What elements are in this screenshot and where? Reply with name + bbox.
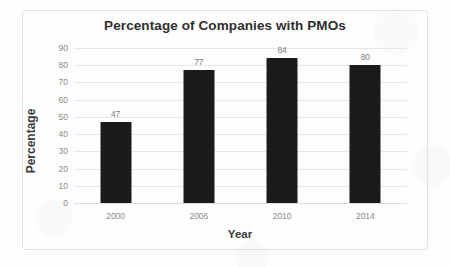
bar[interactable] (267, 58, 298, 203)
y-axis-title: Percentage (24, 96, 38, 186)
bar[interactable] (100, 122, 131, 203)
x-axis-tick-label: 2006 (189, 211, 208, 221)
bar-value-label: 84 (277, 45, 286, 55)
y-axis-tick-label: 50 (59, 112, 68, 122)
bar-group: 772006 (157, 48, 240, 203)
bar[interactable] (183, 70, 214, 203)
y-axis-tick-label: 40 (59, 129, 68, 139)
bar-group: 472000 (74, 48, 157, 203)
y-axis-tick-label: 80 (59, 60, 68, 70)
chart-figure: Percentage of Companies with PMOs Percen… (0, 0, 450, 267)
y-axis-tick-label: 20 (59, 164, 68, 174)
bar-value-label: 47 (111, 109, 120, 119)
y-axis-tick-label: 30 (59, 146, 68, 156)
bar[interactable] (350, 65, 381, 203)
gridline (74, 203, 407, 204)
y-axis-tick-label: 60 (59, 95, 68, 105)
x-axis-tick-label: 2000 (106, 211, 125, 221)
bar-value-label: 80 (361, 52, 370, 62)
y-axis-tick-label: 10 (59, 181, 68, 191)
bar-group: 842010 (241, 48, 324, 203)
y-axis-tick-label: 0 (63, 198, 68, 208)
bar-value-label: 77 (194, 57, 203, 67)
plot-area: 9080706050403020100 47200077200684201080… (74, 48, 407, 203)
chart-title: Percentage of Companies with PMOs (22, 18, 428, 33)
y-axis-tick-label: 70 (59, 77, 68, 87)
bar-group: 802014 (324, 48, 407, 203)
y-axis-tick-label: 90 (59, 43, 68, 53)
x-axis-title: Year (70, 228, 410, 240)
x-axis-tick-label: 2010 (273, 211, 292, 221)
x-axis-tick-label: 2014 (356, 211, 375, 221)
